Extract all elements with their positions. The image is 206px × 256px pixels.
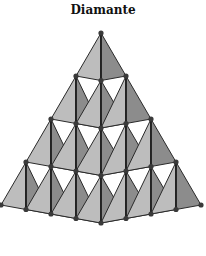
diamond-tetrahedral-pyramid	[0, 0, 206, 256]
